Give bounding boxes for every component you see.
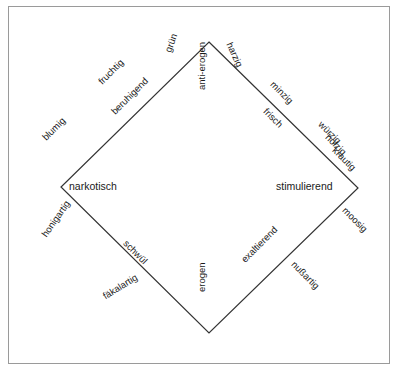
pole-label-erogen: erogen <box>197 262 207 292</box>
odor-diagram-figure: narkotisch stimulierend anti-erogen erog… <box>0 0 401 375</box>
pole-label-anti-erogen: anti-erogen <box>197 42 207 90</box>
pole-label-stimulierend: stimulierend <box>276 181 333 192</box>
pole-label-narkotisch: narkotisch <box>69 181 117 192</box>
